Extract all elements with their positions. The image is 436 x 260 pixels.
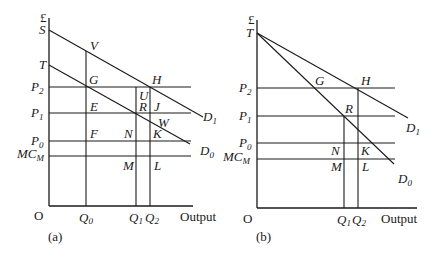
point-h-b: H: [360, 73, 371, 88]
demand-curve-d0-a: [49, 65, 190, 144]
output-axis-label-a: Output: [180, 209, 217, 224]
point-l-b: L: [361, 159, 369, 174]
point-n-a: N: [123, 126, 134, 141]
point-g-a: G: [89, 72, 99, 87]
intercept-t-label-b: T: [246, 25, 254, 40]
demand-curve-d1-a: [49, 30, 203, 117]
point-r-b: R: [344, 101, 353, 116]
point-k-a: K: [152, 126, 163, 141]
price-label-p2-b: P2: [238, 80, 252, 97]
price-label-p2-a: P2: [30, 79, 44, 96]
point-r-a: R: [138, 99, 147, 114]
curve-label-d1-b: D1: [405, 120, 420, 137]
point-m-a: M: [122, 158, 135, 173]
origin-label-a: O: [34, 208, 43, 223]
point-m-b: M: [330, 159, 343, 174]
quantity-label-q2-b: Q2: [352, 212, 366, 228]
origin-label-b: O: [243, 211, 252, 226]
point-k-b: K: [360, 143, 371, 158]
quantity-label-q1-a: Q1: [129, 210, 143, 226]
panel-b: £ T P2 P1 P0 MCM O Q1 Q2 Output (b) D1 D…: [222, 12, 420, 244]
panel-caption-a: (a): [48, 229, 62, 244]
curve-label-d0-a: D0: [199, 143, 214, 160]
panel-caption-b: (b): [256, 229, 271, 244]
point-h-a: H: [151, 72, 162, 87]
diagram-canvas: £ S T P2 P1 P0 MCM O Q0 Q1 Q2 Output (a)…: [0, 0, 436, 260]
panel-a: £ S T P2 P1 P0 MCM O Q0 Q1 Q2 Output (a)…: [16, 10, 217, 244]
point-e: E: [89, 99, 98, 114]
price-label-p1-b: P1: [238, 108, 251, 125]
point-n-b: N: [330, 143, 341, 158]
quantity-label-q0-a: Q0: [79, 210, 93, 226]
point-l-a: L: [153, 158, 161, 173]
curve-label-d0-b: D0: [397, 171, 412, 188]
output-axis-label-b: Output: [381, 211, 418, 226]
quantity-label-q1-b: Q1: [337, 212, 351, 228]
intercept-s-label: S: [39, 22, 46, 37]
point-g-b: G: [315, 73, 325, 88]
point-f: F: [89, 126, 99, 141]
curve-label-d1-a: D1: [202, 109, 217, 126]
quantity-label-q2-a: Q2: [145, 210, 159, 226]
price-label-p1-a: P1: [30, 105, 43, 122]
intercept-t-label-a: T: [39, 57, 47, 72]
point-v: V: [90, 38, 100, 53]
point-j: J: [154, 99, 161, 114]
